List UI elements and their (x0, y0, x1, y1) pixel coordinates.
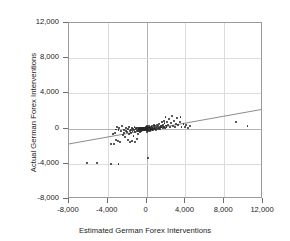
data-point (166, 121, 168, 123)
x-tick-label: 0 (143, 205, 147, 214)
x-tick-label: -8,000 (57, 205, 79, 214)
data-point (173, 120, 175, 122)
x-tick-label: -4,000 (96, 205, 118, 214)
data-point (114, 132, 116, 134)
x-tick-mark (146, 198, 147, 203)
plot-area (68, 22, 262, 198)
regression-trend-line (69, 23, 261, 197)
scatter-chart-figure: Actual German Forex Interventions Estima… (0, 0, 290, 241)
x-tick-label: 8,000 (214, 205, 233, 214)
data-point (171, 115, 173, 117)
x-tick-mark (68, 198, 69, 203)
data-point (131, 140, 133, 142)
x-tick-mark (223, 198, 224, 203)
data-point (137, 133, 139, 135)
data-point (110, 143, 112, 145)
y-tick-mark (63, 198, 68, 199)
y-axis-title: Actual German Forex Interventions (29, 18, 38, 208)
y-tick-label: 8,000 (40, 52, 59, 61)
data-point (177, 124, 179, 126)
x-tick-mark (107, 198, 108, 203)
data-point (113, 143, 115, 145)
data-point (128, 126, 130, 128)
data-point (176, 117, 178, 119)
x-tick-mark (184, 198, 185, 203)
data-point (136, 138, 138, 140)
y-tick-label: 4,000 (40, 87, 59, 96)
y-tick-label: -4,000 (37, 158, 59, 167)
data-point (110, 163, 112, 165)
y-tick-label: 12,000 (36, 17, 59, 26)
data-point (170, 122, 172, 124)
data-point (174, 126, 176, 128)
data-point (123, 132, 125, 134)
y-tick-label: -8,000 (37, 193, 59, 202)
x-tick-mark (262, 198, 263, 203)
data-point (169, 126, 171, 128)
x-axis-title: Estimated German Forex Interventions (0, 226, 290, 235)
x-tick-label: 4,000 (175, 205, 194, 214)
x-tick-label: 12,000 (250, 205, 273, 214)
y-tick-label: 0 (55, 123, 59, 132)
